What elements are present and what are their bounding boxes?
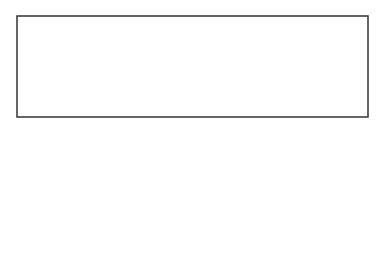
supply-demand-diagram bbox=[0, 0, 384, 265]
frame-border bbox=[17, 16, 368, 117]
